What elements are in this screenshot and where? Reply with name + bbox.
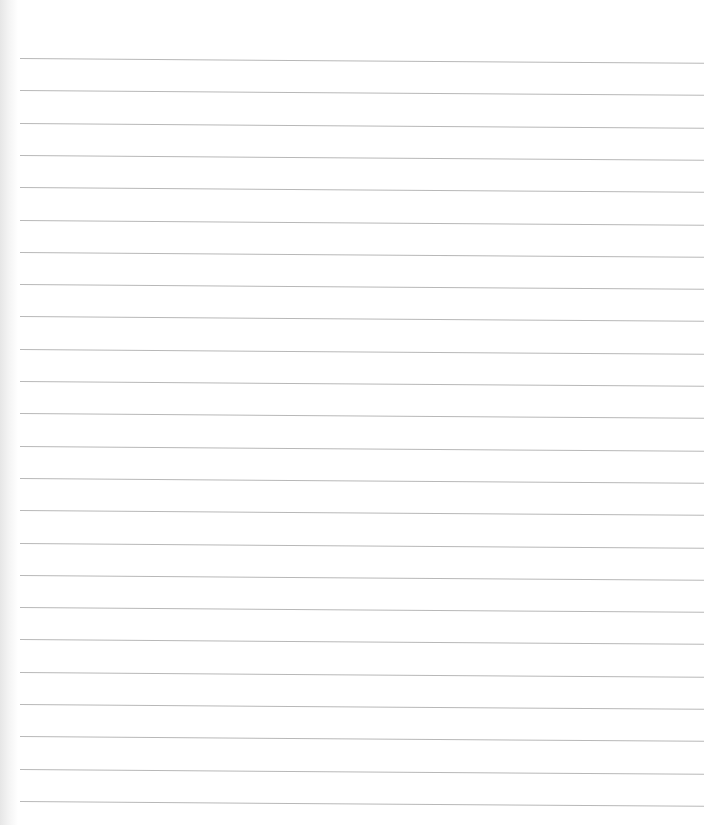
ruled-line (20, 478, 704, 484)
ruled-line (20, 123, 704, 129)
ruled-line (20, 543, 704, 549)
ruled-line (20, 607, 704, 613)
ruled-line (20, 413, 704, 419)
ruled-line (20, 510, 704, 516)
ruled-line (20, 349, 704, 355)
ruled-line (20, 252, 704, 258)
ruled-line (20, 155, 704, 161)
ruled-line (20, 672, 704, 678)
ruled-line (20, 381, 704, 387)
ruled-line (20, 220, 704, 226)
ruled-line (20, 575, 704, 581)
ruled-lines (0, 0, 716, 825)
ruled-line (20, 446, 704, 452)
ruled-line (20, 801, 704, 807)
ruled-line (20, 704, 704, 710)
ruled-line (20, 90, 704, 96)
ruled-line (20, 58, 704, 64)
ruled-line (20, 284, 704, 290)
ruled-line (20, 769, 704, 775)
ruled-line (20, 187, 704, 193)
ruled-line (20, 316, 704, 322)
ruled-line (20, 736, 704, 742)
ruled-line (20, 639, 704, 645)
